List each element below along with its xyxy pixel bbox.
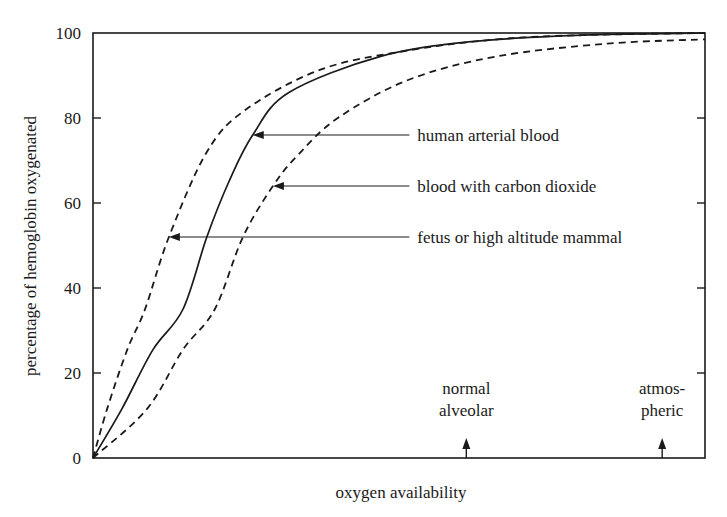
x-marker-layer: normalalveolaratmos-pheric <box>439 379 686 458</box>
x-marker-label: normal <box>442 379 490 398</box>
x-marker-label: alveolar <box>439 401 494 420</box>
arrowhead-up-icon <box>658 438 666 449</box>
annotation-label-blood-with-carbon-dioxide: blood with carbon dioxide <box>417 177 596 196</box>
arrowhead-left-icon <box>169 233 180 241</box>
x-marker-label: atmos- <box>639 379 686 398</box>
annotation-label-fetus-or-high-altitude-mammal: fetus or high altitude mammal <box>417 228 622 247</box>
oxygen-dissociation-chart: 020406080100 fetus or high altitude mamm… <box>0 0 727 517</box>
y-tick-label: 40 <box>64 279 81 298</box>
x-axis-label: oxygen availability <box>336 483 467 502</box>
annotation-label-human-arterial-blood: human arterial blood <box>417 126 559 145</box>
y-axis-label: percentage of hemoglobin oxygenated <box>21 115 40 376</box>
arrowhead-left-icon <box>273 182 284 190</box>
y-tick-label: 80 <box>64 109 81 128</box>
annotation-layer: fetus or high altitude mammalhuman arter… <box>169 126 623 247</box>
y-tick-label: 20 <box>64 364 81 383</box>
y-tick-label: 0 <box>73 449 82 468</box>
x-marker-label: pheric <box>641 401 684 420</box>
y-tick-label: 100 <box>56 24 82 43</box>
arrowhead-up-icon <box>462 438 470 449</box>
y-tick-label: 60 <box>64 194 81 213</box>
curve-blood-with-carbon-dioxide <box>93 39 705 458</box>
